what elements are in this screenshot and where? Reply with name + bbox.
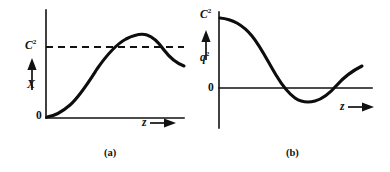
panel-b-x-axis-label: z xyxy=(340,101,344,113)
panel-b-origin-label: 0 xyxy=(208,82,214,94)
panel-b-curve xyxy=(220,18,362,102)
panel-a-caption: (a) xyxy=(104,148,116,159)
figure-container: C2 X 0 z (a) C2 q2 0 z (b) xyxy=(0,0,390,172)
panel-a-threshold-label-base: C xyxy=(25,39,33,51)
panel-b xyxy=(201,12,374,128)
panel-a-y-axis-label: X xyxy=(27,78,35,90)
panel-b-top-label-sup: 2 xyxy=(208,7,212,15)
panel-b-top-label-base: C xyxy=(200,8,208,20)
panel-b-y-axis-label: q2 xyxy=(200,52,209,64)
panel-b-caption: (b) xyxy=(286,148,299,159)
panel-a xyxy=(27,10,184,128)
panel-b-y-axis-label-sup: 2 xyxy=(206,50,210,58)
panel-a-origin-label: 0 xyxy=(36,110,42,122)
panel-b-top-label: C2 xyxy=(200,9,211,21)
panel-a-x-axis-label: z xyxy=(142,117,146,129)
panel-a-threshold-label: C2 xyxy=(25,40,36,52)
figure-canvas xyxy=(0,0,390,172)
panel-a-curve xyxy=(47,34,184,117)
panel-a-x-arrow-icon xyxy=(150,118,176,127)
panel-a-threshold-label-sup: 2 xyxy=(33,38,37,46)
panel-b-x-arrow-icon xyxy=(348,102,374,111)
